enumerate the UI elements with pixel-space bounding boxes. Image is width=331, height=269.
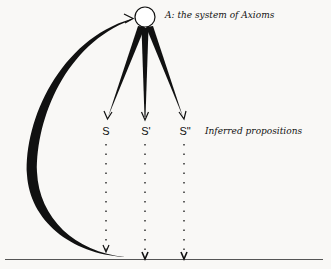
axioms-label: A: the system of Axioms: [165, 10, 274, 20]
intuitive-leap-arc: [27, 19, 131, 257]
inferred-propositions-label: Inferred propositions: [205, 126, 302, 136]
axioms-circle: [135, 7, 155, 27]
deduction-wedge-s: [108, 26, 145, 117]
arrowhead-s-double-prime-icon: [179, 111, 186, 119]
deduction-wedge-s-double-prime: [146, 26, 183, 117]
dotted-arrowhead-s-prime-icon: [142, 252, 148, 259]
arrowhead-s-icon: [104, 111, 112, 119]
proposition-label-s-double-prime: S": [179, 125, 190, 137]
deduction-wedge-s-prime: [142, 28, 149, 117]
proposition-label-s-prime: S': [141, 125, 150, 137]
dotted-arrowhead-s-double-prime-icon: [181, 252, 187, 259]
proposition-label-s: S: [102, 125, 109, 137]
